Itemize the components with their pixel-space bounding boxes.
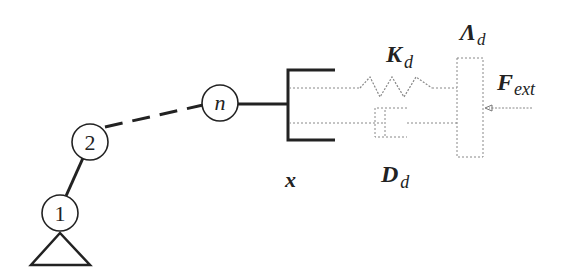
joint-1: 1 — [42, 195, 78, 231]
label-inertia-main: Λ — [458, 19, 476, 45]
spring-zigzag — [360, 77, 432, 97]
joint-n: n — [202, 85, 238, 121]
end-effector-bracket — [288, 70, 335, 140]
label-stiffness-main: K — [385, 41, 404, 67]
label-inertia-sub: d — [477, 30, 486, 49]
impedance-diagram: 1 2 n x Kd Dd Λd Fext — [0, 0, 567, 278]
label-stiffness-sub: d — [404, 52, 414, 72]
joint-n-label: n — [215, 90, 226, 115]
joint-1-label: 1 — [55, 201, 66, 226]
label-external-force: Fext — [496, 69, 536, 99]
joint-2-label: 2 — [85, 130, 96, 155]
label-stiffness: Kd — [385, 41, 414, 72]
link-2-n-dashed — [105, 105, 203, 127]
label-damping-sub: d — [400, 172, 410, 192]
base-triangle — [31, 233, 90, 265]
joint-2: 2 — [72, 124, 108, 160]
damper-cup — [375, 108, 407, 137]
label-force-sub: ext — [514, 79, 536, 99]
label-force-main: F — [496, 69, 513, 95]
label-damping-main: D — [380, 161, 398, 187]
link-1-2 — [66, 158, 83, 196]
label-inertia: Λd — [458, 19, 486, 49]
label-damping: Dd — [380, 161, 410, 192]
inertia-box — [457, 58, 483, 157]
external-force-arrowhead — [485, 105, 492, 111]
label-position-x: x — [284, 167, 296, 192]
